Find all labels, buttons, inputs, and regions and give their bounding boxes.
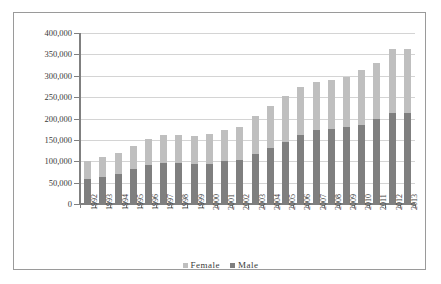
- y-axis-tick-label: 350,000: [44, 50, 72, 59]
- bar-segment-male: [343, 127, 350, 204]
- bar-stack: [252, 116, 259, 204]
- x-axis-tick-label: 2007: [320, 194, 328, 210]
- plot-area: [80, 33, 415, 204]
- y-axis-tick-label: 250,000: [44, 93, 72, 102]
- bar-segment-female: [99, 157, 106, 177]
- x-axis-tick-label: 2003: [259, 194, 267, 210]
- bar-segment-female: [343, 77, 350, 128]
- y-axis-tick-label: 100,000: [44, 157, 72, 166]
- y-axis-tick-label: 400,000: [44, 29, 72, 38]
- bar-segment-female: [115, 153, 122, 174]
- legend-item-male[interactable]: Male: [230, 259, 259, 270]
- x-axis-tick-label: 2005: [289, 194, 297, 210]
- x-axis-tick-label: 1999: [198, 194, 206, 210]
- bar-segment-female: [206, 134, 213, 163]
- bar-segment-female: [328, 80, 335, 128]
- bar-stack: [389, 49, 396, 204]
- x-axis-tick-label: 1992: [91, 194, 99, 210]
- x-axis-tick-label: 1998: [182, 194, 190, 210]
- x-axis-tick-label: 1993: [106, 194, 114, 210]
- bar-stack: [358, 70, 365, 204]
- bar-segment-female: [175, 135, 182, 163]
- bar-segment-female: [313, 82, 320, 130]
- x-axis-tick-label: 2004: [274, 194, 282, 210]
- y-axis-tick-label: 200,000: [44, 115, 72, 124]
- x-axis-tick-label: 2012: [396, 194, 404, 210]
- bar-segment-female: [252, 116, 259, 154]
- legend-swatch-icon: [183, 263, 188, 268]
- bar-segment-male: [404, 113, 411, 204]
- bar-segment-female: [221, 130, 228, 162]
- legend-swatch-icon: [230, 263, 235, 268]
- y-axis-labels: 400,000350,000300,000250,000200,000150,0…: [20, 13, 72, 271]
- bar-segment-female: [373, 63, 380, 119]
- bar-segment-male: [313, 130, 320, 204]
- x-axis-tick-label: 2010: [365, 194, 373, 210]
- x-axis-tick-label: 2011: [380, 194, 388, 210]
- bar-segment-male: [328, 129, 335, 204]
- bar-segment-female: [84, 161, 91, 179]
- bar-stack: [267, 106, 274, 204]
- legend-item-female[interactable]: Female: [183, 259, 221, 270]
- legend-label: Male: [238, 260, 259, 270]
- bar-segment-male: [373, 119, 380, 204]
- x-axis-tick-label: 2008: [335, 194, 343, 210]
- bar-segment-female: [160, 135, 167, 162]
- bar-segment-male: [358, 125, 365, 204]
- bar-segment-female: [191, 136, 198, 164]
- x-axis-tick-label: 1997: [167, 194, 175, 210]
- bar-stack: [373, 63, 380, 204]
- bar-segment-female: [404, 49, 411, 112]
- bar-segment-female: [236, 127, 243, 160]
- bar-stack: [221, 130, 228, 204]
- bar-segment-female: [267, 106, 274, 147]
- y-axis-tick-label: 300,000: [44, 72, 72, 81]
- x-axis-tick-label: 1996: [152, 194, 160, 210]
- x-axis-tick-label: 1994: [122, 194, 130, 210]
- bar-stack: [282, 96, 289, 204]
- bar-segment-female: [145, 139, 152, 165]
- bar-stack: [404, 49, 411, 204]
- bar-stack: [236, 127, 243, 204]
- chart-legend: FemaleMale: [14, 259, 427, 270]
- y-axis-tick-label: 50,000: [49, 179, 72, 188]
- bar-segment-female: [130, 146, 137, 169]
- x-axis-tick-label: 2013: [411, 194, 419, 210]
- chart-screenshot: 400,000350,000300,000250,000200,000150,0…: [0, 0, 441, 284]
- bar-segment-male: [389, 113, 396, 204]
- x-axis-tick-label: 2002: [243, 194, 251, 210]
- bar-segment-female: [297, 87, 304, 134]
- bar-segment-female: [358, 70, 365, 125]
- x-axis-tick-label: 2009: [350, 194, 358, 210]
- y-axis-tick-label: 150,000: [44, 136, 72, 145]
- bar-stack: [313, 82, 320, 204]
- bar-segment-female: [389, 49, 396, 113]
- chart-frame: 400,000350,000300,000250,000200,000150,0…: [13, 12, 426, 270]
- bar-segment-female: [282, 96, 289, 142]
- x-axis-tick-label: 2006: [304, 194, 312, 210]
- x-axis-tick-label: 2001: [228, 194, 236, 210]
- bar-stack: [328, 80, 335, 204]
- y-axis-tick-label: 0: [68, 200, 72, 209]
- bar-stack: [343, 77, 350, 204]
- legend-label: Female: [191, 260, 221, 270]
- bar-stack: [297, 87, 304, 204]
- x-axis-tick-label: 2000: [213, 194, 221, 210]
- x-axis-tick-label: 1995: [137, 194, 145, 210]
- x-axis-tick: [80, 204, 81, 208]
